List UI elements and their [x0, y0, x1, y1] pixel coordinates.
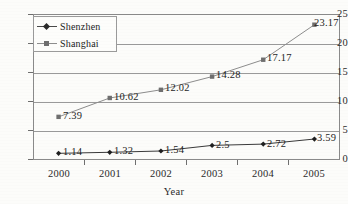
- y-tick-mark-25: [28, 14, 33, 15]
- gridline-10: [34, 102, 339, 103]
- legend: Shenzhen Shanghai: [33, 16, 117, 52]
- y-tick-label-0: 0: [321, 153, 348, 164]
- gridline-5: [34, 131, 339, 132]
- point-label-shanghai-2002: 12.02: [165, 82, 190, 93]
- diamond-marker-icon: [34, 21, 60, 33]
- x-tick-label-2001: 2001: [99, 168, 121, 179]
- chart-screenshot: 25 20 15 10 5 0 2000 2001 2002 2003 2004…: [0, 0, 348, 204]
- x-tick-mark-3: [237, 160, 238, 165]
- point-label-shenzhen-2000: 1.14: [63, 146, 82, 157]
- gridline-15: [34, 73, 339, 74]
- x-tick-mark-2: [186, 160, 187, 165]
- legend-item-shanghai[interactable]: Shanghai: [34, 35, 116, 52]
- x-axis-title: Year: [0, 186, 348, 197]
- y-tick-mark-15: [28, 72, 33, 73]
- y-tick-label-15: 15: [321, 66, 348, 77]
- y-tick-mark-0: [28, 159, 33, 160]
- x-tick-label-2005: 2005: [303, 168, 325, 179]
- legend-label-shanghai: Shanghai: [60, 38, 99, 49]
- x-tick-mark-0: [84, 160, 85, 165]
- point-label-shenzhen-2002: 1.54: [165, 144, 184, 155]
- y-tick-mark-5: [28, 130, 33, 131]
- point-label-shanghai-2001: 10.62: [114, 91, 139, 102]
- y-tick-label-20: 20: [321, 37, 348, 48]
- point-label-shenzhen-2003: 2.5: [216, 139, 230, 150]
- point-label-shanghai-2003: 14.28: [216, 69, 241, 80]
- legend-label-shenzhen: Shenzhen: [60, 21, 100, 32]
- y-tick-label-10: 10: [321, 95, 348, 106]
- point-label-shenzhen-2005: 3.59: [317, 132, 336, 143]
- x-tick-label-2004: 2004: [252, 168, 274, 179]
- legend-item-shenzhen[interactable]: Shenzhen: [34, 18, 116, 35]
- square-marker-icon: [34, 38, 60, 50]
- point-label-shanghai-2000: 7.39: [63, 110, 82, 121]
- x-tick-mark-4: [288, 160, 289, 165]
- x-tick-mark-1: [135, 160, 136, 165]
- x-tick-label-2003: 2003: [201, 168, 223, 179]
- point-label-shenzhen-2004: 2.72: [267, 138, 286, 149]
- y-tick-mark-10: [28, 101, 33, 102]
- point-label-shenzhen-2001: 1.32: [114, 145, 133, 156]
- x-tick-label-2000: 2000: [48, 168, 70, 179]
- x-tick-label-2002: 2002: [150, 168, 172, 179]
- point-label-shanghai-2005: 23.17: [314, 17, 339, 28]
- point-label-shanghai-2004: 17.17: [267, 52, 292, 63]
